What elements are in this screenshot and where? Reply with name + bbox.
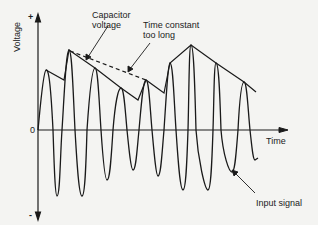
input-signal-waveform — [38, 45, 258, 196]
y-plus-label: + — [28, 12, 33, 22]
input-signal-label: Input signal — [256, 198, 302, 208]
y-axis-label: Voltage — [12, 22, 22, 52]
time-constant-label-line2: too long — [143, 30, 175, 40]
y-minus-label: - — [29, 210, 32, 220]
capacitor-voltage-label-line2: voltage — [92, 20, 121, 30]
annotation-leaders — [86, 26, 255, 193]
time-constant-label-line1: Time constant — [143, 20, 199, 30]
origin-label: 0 — [30, 125, 35, 135]
capacitor-voltage-label-line1: Capacitor — [92, 10, 131, 20]
x-axis-label: Time — [266, 136, 286, 146]
time-constant-dashed-line — [70, 51, 146, 80]
